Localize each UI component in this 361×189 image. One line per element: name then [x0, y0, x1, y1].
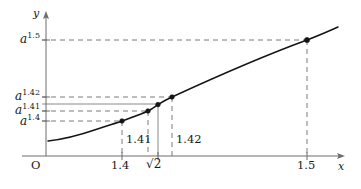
- y-tick-label-a14: a1.4: [0, 114, 40, 127]
- exponential-function-figure: y x O a1.5 a1.42 a1.41 a1.4 1.41 1.42 1.…: [0, 0, 361, 189]
- y-tick-label-a15: a1.5: [0, 32, 40, 45]
- curve-point-sqrt2: [156, 102, 161, 107]
- y-axis-label: y: [33, 8, 39, 19]
- x-tick-label-14: 1.4: [111, 160, 129, 172]
- y-tick-label-a15-exponent: 1.5: [27, 31, 40, 40]
- y-tick-label-a141-exponent: 1.41: [22, 102, 40, 111]
- y-tick-label-a14-exponent: 1.4: [27, 113, 40, 122]
- origin-label: O: [31, 160, 40, 172]
- x-axis-label: x: [338, 161, 344, 172]
- exponential-curve: [48, 27, 338, 141]
- curve-point-15: [304, 37, 309, 42]
- x-inner-label-142: 1.42: [176, 134, 202, 146]
- x-tick-label-sqrt2: √2: [146, 158, 161, 170]
- curve-point-141: [146, 109, 151, 114]
- x-tick-label-15: 1.5: [297, 160, 315, 172]
- x-inner-label-141: 1.41: [126, 134, 152, 146]
- curve-point-142: [170, 95, 175, 100]
- curve-point-14: [120, 119, 125, 124]
- y-tick-label-a142: a1.42: [0, 89, 40, 102]
- y-tick-label-a142-exponent: 1.42: [22, 88, 40, 97]
